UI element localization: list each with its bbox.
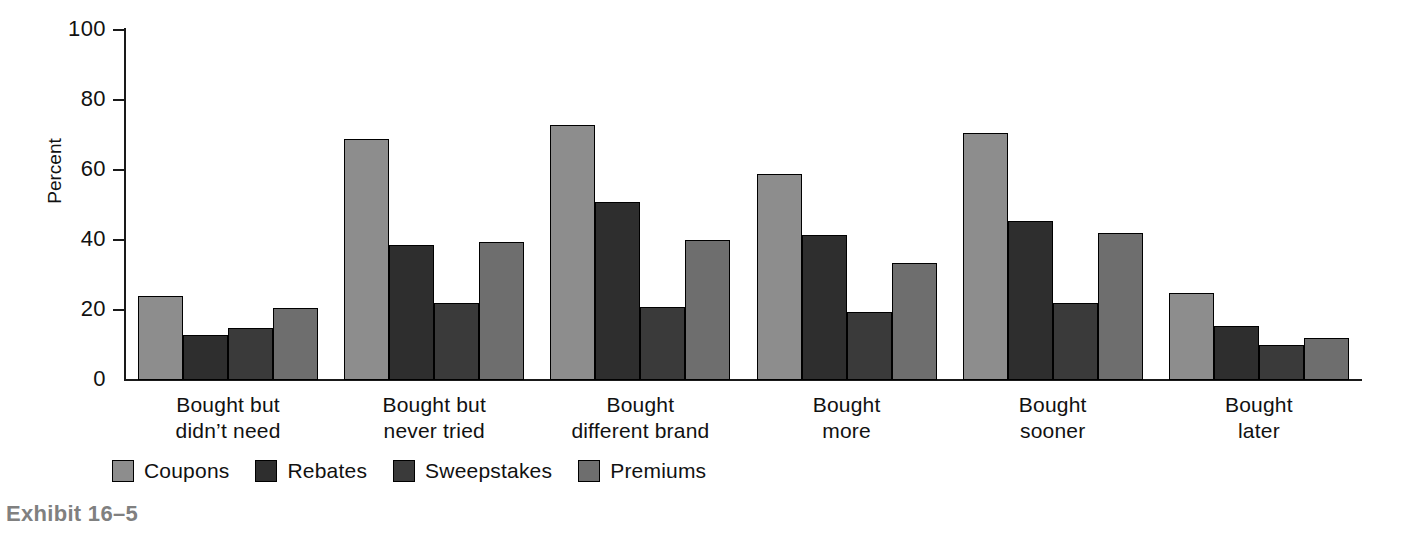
category-label: Bought more	[744, 392, 950, 444]
bar-premiums-3	[892, 263, 937, 380]
legend-item-coupons: Coupons	[112, 459, 229, 483]
legend-swatch-sweepstakes	[393, 460, 415, 482]
legend-swatch-premiums	[578, 460, 600, 482]
bar-premiums-1	[479, 242, 524, 380]
y-tick-label-80: 80	[40, 86, 106, 112]
y-tick-label-100: 100	[40, 16, 106, 42]
legend-item-sweepstakes: Sweepstakes	[393, 459, 552, 483]
bar-rebates-1	[389, 245, 434, 380]
category-label: Bought different brand	[537, 392, 743, 444]
category-label: Bought but didn’t need	[125, 392, 331, 444]
bar-coupons-4	[963, 133, 1008, 380]
bar-sweepstakes-0	[228, 328, 273, 381]
legend-swatch-rebates	[255, 460, 277, 482]
bar-rebates-2	[595, 202, 640, 381]
bar-rebates-5	[1214, 326, 1259, 380]
y-tick-label-0: 0	[40, 366, 106, 392]
bar-group	[1169, 30, 1349, 380]
bar-sweepstakes-4	[1053, 303, 1098, 380]
bar-sweepstakes-3	[847, 312, 892, 380]
bar-coupons-0	[138, 296, 183, 380]
bar-premiums-5	[1304, 338, 1349, 380]
legend-label: Rebates	[287, 459, 367, 483]
bar-rebates-4	[1008, 221, 1053, 380]
bar-coupons-2	[550, 125, 595, 381]
legend-label: Premiums	[610, 459, 706, 483]
bar-group	[138, 30, 318, 380]
bar-premiums-2	[685, 240, 730, 380]
y-tick-label-40: 40	[40, 226, 106, 252]
category-label: Bought later	[1156, 392, 1362, 444]
legend-item-rebates: Rebates	[255, 459, 367, 483]
legend-item-premiums: Premiums	[578, 459, 706, 483]
y-tick-100	[113, 29, 126, 31]
legend-label: Coupons	[144, 459, 229, 483]
bar-rebates-0	[183, 335, 228, 381]
category-label: Bought sooner	[950, 392, 1156, 444]
bar-group	[757, 30, 937, 380]
y-tick-60	[113, 169, 126, 171]
chart-legend: CouponsRebatesSweepstakesPremiums	[112, 459, 706, 483]
bar-coupons-3	[757, 174, 802, 381]
legend-swatch-coupons	[112, 460, 134, 482]
exhibit-caption: Exhibit 16–5	[6, 501, 138, 527]
bar-premiums-4	[1098, 233, 1143, 380]
y-tick-label-60: 60	[40, 156, 106, 182]
category-label: Bought but never tried	[331, 392, 537, 444]
exhibit-figure: Percent 020406080100 Bought but didn’t n…	[0, 0, 1413, 537]
bar-sweepstakes-5	[1259, 345, 1304, 380]
y-axis-line	[124, 28, 126, 381]
y-tick-40	[113, 239, 126, 241]
bar-group	[963, 30, 1143, 380]
bar-coupons-1	[344, 139, 389, 381]
bar-group	[344, 30, 524, 380]
legend-label: Sweepstakes	[425, 459, 552, 483]
bar-sweepstakes-2	[640, 307, 685, 381]
y-tick-80	[113, 99, 126, 101]
y-tick-20	[113, 309, 126, 311]
bar-sweepstakes-1	[434, 303, 479, 380]
bar-rebates-3	[802, 235, 847, 380]
bar-group	[550, 30, 730, 380]
bar-premiums-0	[273, 308, 318, 380]
bar-coupons-5	[1169, 293, 1214, 381]
y-tick-label-20: 20	[40, 296, 106, 322]
